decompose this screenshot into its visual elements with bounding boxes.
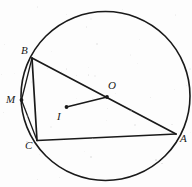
point-label-a: A <box>180 133 187 144</box>
figure-canvas <box>0 0 192 187</box>
segment-CA <box>37 134 176 141</box>
segment-BA <box>32 58 176 134</box>
point-dot-o <box>105 95 109 99</box>
point-label-m: M <box>6 94 15 105</box>
point-label-b: B <box>21 45 28 56</box>
segment-layer <box>22 58 177 141</box>
geometry-figure: BMCAOI <box>0 0 192 187</box>
point-label-i: I <box>57 111 61 122</box>
segment-IO <box>67 97 108 107</box>
point-label-o: O <box>108 80 116 91</box>
point-dot-i <box>65 105 69 109</box>
point-dot-m <box>20 98 24 102</box>
point-dot-layer <box>20 95 109 109</box>
point-label-c: C <box>25 140 32 151</box>
